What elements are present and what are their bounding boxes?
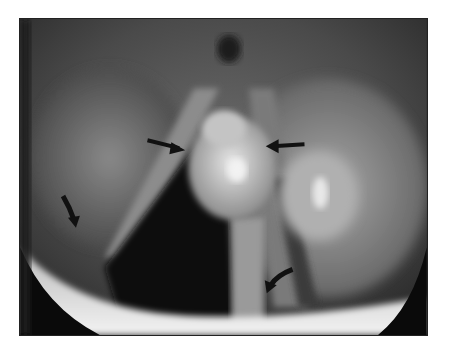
larynx-image	[20, 19, 427, 335]
endoscopic-image-frame	[19, 18, 428, 336]
